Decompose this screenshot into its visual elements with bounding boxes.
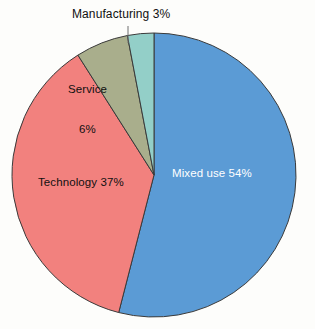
- pie-chart: [0, 0, 315, 329]
- pie-label-service: Service 6%: [68, 57, 107, 163]
- pie-label-service-name: Service: [68, 83, 107, 96]
- pie-chart-screenshot: Manufacturing 3% Service 6% Technology 3…: [0, 0, 315, 329]
- pie-label-service-value: 6%: [68, 123, 107, 136]
- pie-label-technology: Technology 37%: [38, 176, 124, 189]
- pie-label-manufacturing: Manufacturing 3%: [72, 8, 170, 22]
- pie-label-mixed-use: Mixed use 54%: [172, 167, 252, 180]
